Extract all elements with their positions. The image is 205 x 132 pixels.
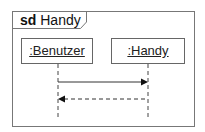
frame-keyword: sd	[20, 12, 36, 28]
lifeline-head-handy: :Handy	[111, 38, 185, 64]
frame-name: Handy	[40, 12, 80, 28]
arrowhead-filled-icon	[141, 79, 148, 86]
lifeline-label: :Handy	[127, 43, 168, 58]
lifeline-label: :Benutzer	[29, 43, 85, 58]
frame-title: sd Handy	[20, 12, 81, 28]
arrowhead-return-icon	[58, 96, 65, 103]
lifeline-head-benutzer: :Benutzer	[21, 38, 93, 64]
